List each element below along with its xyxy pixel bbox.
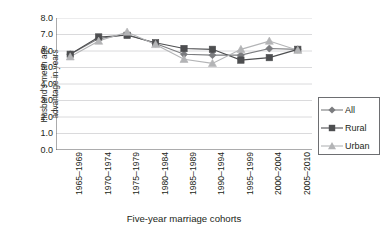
x-axis-tick-label: 1970–1974 — [103, 152, 113, 195]
legend-label: All — [345, 105, 355, 115]
x-axis-tick-label: 1995–1999 — [245, 152, 255, 195]
legend-item-urban[interactable]: Urban — [319, 137, 381, 155]
y-axis-tick-label: 7.0 — [40, 30, 53, 39]
marker-rural — [266, 54, 272, 60]
y-axis-tick-labels: 8.07.06.05.04.03.02.01.00.0 — [20, 18, 53, 150]
marker-urban — [123, 28, 131, 35]
marker-urban — [180, 55, 188, 62]
chart-container: Husband's mean age advantage in years 8.… — [0, 0, 391, 242]
x-axis-tick-label: 1990–1994 — [216, 152, 226, 195]
x-axis-tick-label: 1980–1984 — [160, 152, 170, 195]
plot-area — [56, 18, 312, 150]
x-axis-tick-label: 1975–1979 — [131, 152, 141, 195]
y-axis-tick-label: 3.0 — [40, 96, 53, 105]
y-axis-tick-label: 0.0 — [40, 146, 53, 155]
marker-rural — [238, 57, 244, 63]
x-axis-tick-label: 1985–1989 — [188, 152, 198, 195]
legend-marker-square-icon — [319, 119, 345, 137]
x-axis-tick-label: 1965–1969 — [74, 152, 84, 195]
x-axis-tick-labels: 1965–19691970–19741975–19791980–19841985… — [56, 152, 312, 210]
y-axis-tick-label: 4.0 — [40, 80, 53, 89]
x-axis-tick-label: 2000–2004 — [273, 152, 283, 195]
legend-item-all[interactable]: All — [319, 101, 381, 119]
chart-legend: AllRuralUrban — [318, 97, 380, 155]
y-axis-tick-label: 2.0 — [40, 113, 53, 122]
legend-label: Rural — [345, 123, 367, 133]
legend-label: Urban — [345, 141, 370, 151]
y-axis-tick-label: 8.0 — [40, 14, 53, 23]
marker-rural — [209, 46, 215, 52]
y-axis-tick-label: 5.0 — [40, 63, 53, 72]
y-axis-tick-label: 1.0 — [40, 129, 53, 138]
marker-rural — [181, 45, 187, 51]
legend-item-rural[interactable]: Rural — [319, 119, 381, 137]
x-axis-title: Five-year marriage cohorts — [56, 213, 312, 224]
y-axis-tick-label: 6.0 — [40, 47, 53, 56]
plot-svg — [56, 18, 312, 150]
legend-marker-diamond-icon — [319, 101, 345, 119]
legend-marker-triangle-icon — [319, 137, 345, 155]
marker-urban — [265, 37, 273, 44]
x-axis-tick-label: 2005–2010 — [302, 152, 312, 195]
